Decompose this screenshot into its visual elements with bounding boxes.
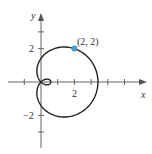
y-axis-arrow-icon xyxy=(38,13,44,21)
x-axis-arrow-icon xyxy=(139,79,147,85)
y-tick-label-neg2: −2 xyxy=(23,110,34,121)
y-axis-label: y xyxy=(30,10,36,21)
x-axis-label: x xyxy=(140,89,146,100)
point-label: (2, 2) xyxy=(77,36,99,48)
axes xyxy=(8,18,142,148)
x-tick-label-2: 2 xyxy=(72,88,77,99)
y-tick-label-2: 2 xyxy=(29,43,34,54)
polar-graph: y x 2 2 −2 (2, 2) xyxy=(0,0,152,154)
